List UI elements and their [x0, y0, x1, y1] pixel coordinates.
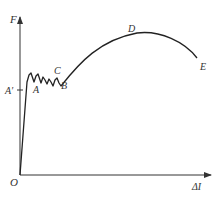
- point-b-label: B: [61, 80, 67, 91]
- force-elongation-diagram: F ΔI O A′ A B C D E: [0, 0, 220, 197]
- origin-label: O: [10, 176, 18, 188]
- force-elongation-curve: [20, 33, 197, 175]
- point-a-prime-label: A′: [4, 85, 14, 96]
- point-e-label: E: [199, 61, 206, 72]
- y-axis-label: F: [9, 13, 17, 25]
- diagram-canvas: F ΔI O A′ A B C D E: [0, 0, 220, 197]
- x-axis-label: ΔI: [191, 181, 202, 192]
- point-a-label: A: [32, 84, 40, 95]
- point-d-label: D: [127, 23, 136, 34]
- point-c-label: C: [54, 65, 61, 76]
